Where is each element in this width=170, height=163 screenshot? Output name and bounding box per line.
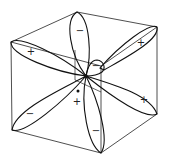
cube-edge-front-top-left [11,42,101,66]
center-node [84,74,88,78]
orbital-cube-diagram: − + + − + − − + [0,0,170,163]
small-node [77,90,80,93]
sign-lower-right: + [140,94,148,105]
sign-upper-right: + [137,37,145,48]
cube-edge-front-top-right [101,27,157,66]
sign-upper-left: + [27,46,35,57]
sign-small-back: − [92,60,100,71]
sign-bottom: − [92,125,100,136]
sign-top: − [76,25,84,36]
diagram-canvas: − + + − + − − + [0,0,170,163]
sign-lower-left: − [26,108,34,119]
sign-center-small: + [73,96,81,107]
sign-labels: − + + − + − − + [26,25,148,136]
